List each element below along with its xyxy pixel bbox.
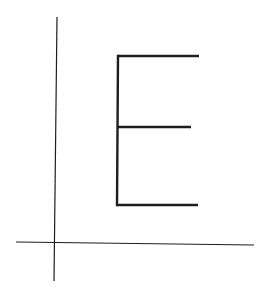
x-axis	[16, 242, 254, 245]
y-axis	[54, 17, 57, 281]
diagram-canvas	[0, 0, 268, 305]
letter-e-spine	[117, 56, 118, 205]
diagram-svg	[0, 0, 268, 305]
letter-e	[117, 56, 199, 205]
